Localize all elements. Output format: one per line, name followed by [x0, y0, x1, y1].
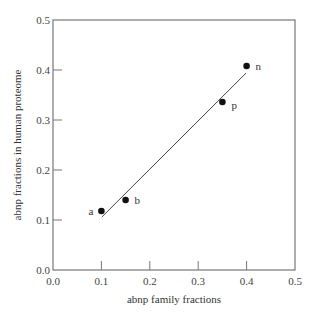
- data-point-a: [98, 208, 105, 215]
- y-tick-label: 0.3: [36, 114, 50, 126]
- data-point-b: [122, 197, 129, 204]
- point-label-b: b: [135, 194, 141, 206]
- point-label-p: p: [231, 99, 237, 111]
- scatter-chart: 0.00.10.20.30.40.50.00.10.20.30.40.5 abp…: [0, 0, 315, 321]
- y-tick-label: 0.2: [36, 164, 50, 176]
- regression-line: [102, 73, 246, 217]
- y-axis-label: abnp fractions in human proteome: [11, 69, 23, 220]
- y-tick-label: 0.1: [36, 214, 50, 226]
- x-axis-label: abnp family fractions: [127, 293, 221, 305]
- y-tick-label: 0.0: [36, 264, 50, 276]
- x-tick-label: 0.4: [240, 275, 254, 287]
- x-tick-label: 0.1: [95, 275, 109, 287]
- point-label-a: a: [89, 205, 94, 217]
- y-tick-label: 0.5: [36, 14, 50, 26]
- data-point-p: [219, 99, 226, 106]
- fit-line: [102, 73, 246, 217]
- x-tick-label: 0.2: [143, 275, 157, 287]
- x-tick-label: 0.3: [191, 275, 205, 287]
- data-point-n: [243, 63, 250, 70]
- x-tick-label: 0.5: [288, 275, 302, 287]
- x-tick-label: 0.0: [46, 275, 60, 287]
- point-label-n: n: [256, 60, 262, 72]
- y-tick-label: 0.4: [36, 64, 50, 76]
- axis-ticks: 0.00.10.20.30.40.50.00.10.20.30.40.5: [36, 14, 302, 287]
